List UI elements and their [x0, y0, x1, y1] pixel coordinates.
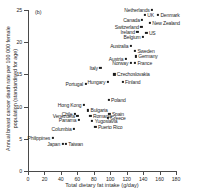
data-point-label: Canada [123, 18, 140, 23]
y-axis-title: Annual breast cancer death rate per 100 … [5, 14, 18, 164]
data-point-label: New Zealand [152, 20, 180, 25]
data-point [130, 45, 132, 47]
x-tick-180 [176, 171, 177, 175]
panel-label: (b) [35, 9, 42, 15]
data-point-label: Netherlands [124, 8, 149, 13]
data-point [135, 55, 137, 57]
y-tick-25 [24, 10, 28, 11]
y-tick-label-0: 0 [8, 168, 22, 174]
data-point-label: Portugal [66, 82, 83, 87]
data-point [134, 62, 136, 64]
data-point-label: Belgium [124, 35, 141, 40]
data-point-label: Italy [89, 65, 97, 70]
data-point [107, 81, 109, 83]
x-axis-title: Total dietary fat intake (g/day) [28, 182, 176, 188]
data-point-label: Japan [47, 141, 60, 146]
data-point-label: UK [147, 13, 154, 18]
x-tick-160 [160, 171, 161, 175]
data-point [84, 83, 86, 85]
x-tick-60 [77, 171, 78, 175]
data-point [73, 128, 75, 130]
data-point-label: Denmark [160, 12, 179, 17]
data-point-label: Puerto Rico [98, 124, 122, 129]
data-point [149, 22, 151, 24]
data-point-label: Germany [138, 54, 158, 59]
data-point-label: Hungary [87, 80, 105, 85]
data-point [107, 99, 109, 101]
data-point [134, 50, 136, 52]
data-point [52, 137, 54, 139]
data-point-label: Hong Kong [58, 103, 82, 108]
data-point [140, 26, 142, 28]
x-axis-line [28, 171, 176, 172]
data-point [142, 36, 144, 38]
data-point [65, 143, 67, 145]
x-tick-120 [127, 171, 128, 175]
data-point [83, 104, 85, 106]
data-point [99, 67, 101, 69]
data-point-label: Norway [112, 60, 128, 65]
data-point-label: Columbia [52, 127, 72, 132]
data-point-label: Taiwan [68, 141, 83, 146]
data-point [144, 14, 146, 16]
y-axis-line [28, 10, 29, 171]
y-tick-20 [24, 42, 28, 43]
data-point-label: Finland [125, 80, 140, 85]
data-point-label: France [137, 60, 152, 65]
x-tick-140 [143, 171, 144, 175]
data-point [94, 125, 96, 127]
y-tick-15 [24, 74, 28, 75]
x-tick-80 [94, 171, 95, 175]
data-point-label: US [149, 31, 156, 36]
data-point [145, 32, 147, 34]
y-tick-label-25: 25 [8, 7, 22, 13]
data-point-label: Poland [111, 98, 126, 103]
data-point [130, 62, 132, 64]
data-point [78, 119, 80, 121]
data-point [157, 13, 159, 15]
x-tick-100 [110, 171, 111, 175]
x-tick-0 [28, 171, 29, 175]
data-point-label: Australia [110, 44, 128, 49]
data-point [89, 115, 91, 117]
data-point [91, 120, 93, 122]
x-tick-40 [61, 171, 62, 175]
y-tick-10 [24, 107, 28, 108]
scatter-chart-figure: (b) 0510152025 020406080100120140160180 … [0, 0, 209, 189]
data-point-label: Panama [59, 118, 77, 123]
x-tick-20 [44, 171, 45, 175]
data-point [141, 19, 143, 21]
data-point [121, 81, 123, 83]
data-point [61, 143, 63, 145]
data-point [87, 109, 89, 111]
data-point [113, 73, 115, 75]
plot-area: (b) 0510152025 020406080100120140160180 … [0, 0, 209, 189]
data-point-label: Czechoslovakia [117, 72, 150, 77]
